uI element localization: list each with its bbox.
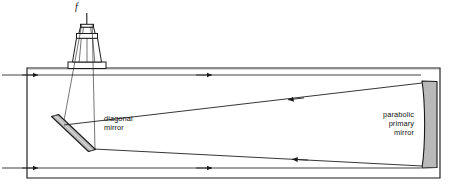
diagram-canvas (0, 0, 464, 191)
parabolic-primary-mirror (422, 81, 437, 168)
eyepiece-assembly (68, 24, 106, 68)
eyepiece-top-cap (81, 24, 94, 27)
primary-mirror-body (422, 81, 437, 168)
primary-mirror-label: parabolic primary mirror (352, 110, 414, 138)
diagonal-mirror-label: diagonal mirror (104, 114, 133, 132)
focal-point-label: f (75, 2, 78, 11)
telescope-diagram: f diagonal mirror parabolic primary mirr… (0, 0, 464, 191)
